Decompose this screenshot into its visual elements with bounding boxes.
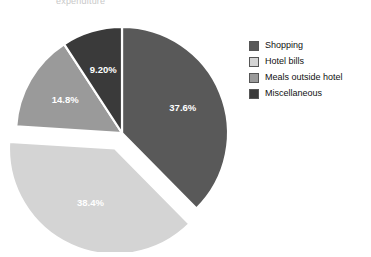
- legend-item-meals-outside-hotel[interactable]: Meals outside hotel: [249, 70, 369, 85]
- legend-item-shopping[interactable]: Shopping: [249, 38, 369, 53]
- pie-slice-value-label: 14.8%: [52, 94, 79, 105]
- cropped-caption-fragment: expenditure: [56, 0, 105, 6]
- pie-plot-area: 37.6%38.4%14.8%9.20%: [6, 12, 238, 252]
- legend-item-miscellaneous[interactable]: Miscellaneous: [249, 86, 369, 101]
- legend-item-hotel-bills[interactable]: Hotel bills: [249, 54, 369, 69]
- legend-swatch-icon: [249, 73, 259, 83]
- legend-swatch-icon: [249, 57, 259, 67]
- pie-slice-value-label: 38.4%: [77, 197, 104, 208]
- pie-slice-value-label: 9.20%: [90, 64, 117, 75]
- legend-item-label: Miscellaneous: [265, 89, 322, 98]
- chart-legend: Shopping Hotel bills Meals outside hotel…: [249, 38, 369, 102]
- legend-swatch-icon: [249, 89, 259, 99]
- pie-svg: 37.6%38.4%14.8%9.20%: [6, 12, 238, 252]
- pie-chart-figure: expenditure 37.6%38.4%14.8%9.20% Shoppin…: [0, 0, 371, 257]
- legend-item-label: Meals outside hotel: [265, 73, 343, 82]
- legend-item-label: Shopping: [265, 41, 303, 50]
- pie-slice-group: [9, 27, 228, 252]
- legend-item-label: Hotel bills: [265, 57, 304, 66]
- legend-swatch-icon: [249, 41, 259, 51]
- pie-slice-value-label: 37.6%: [169, 102, 196, 113]
